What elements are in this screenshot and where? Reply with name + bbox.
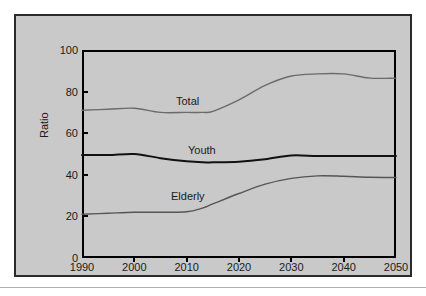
y-axis-tick-label: 100 [52, 45, 78, 56]
x-axis-tick-label: 2050 [384, 262, 408, 273]
y-axis-tick-label: 20 [52, 211, 78, 222]
x-axis-tick-label: 2030 [279, 262, 303, 273]
bottom-divider [0, 287, 426, 288]
y-axis-tick-mark [82, 215, 88, 217]
chart-plot-area [82, 50, 396, 258]
series-label-elderly: Elderly [171, 190, 205, 202]
y-axis-tick-mark [82, 91, 88, 93]
series-label-total: Total [176, 95, 199, 107]
x-axis-tick-mark [238, 258, 240, 262]
series-label-youth: Youth [188, 144, 216, 156]
x-axis-tick-mark [290, 258, 292, 262]
x-axis-tick-labels: 1990200020102020203020402050 [82, 262, 396, 278]
y-axis-tick-mark [82, 174, 88, 176]
y-axis-tick-label: 60 [52, 128, 78, 139]
y-axis-tick-label: 80 [52, 87, 78, 98]
series-line-youth [82, 154, 396, 163]
x-axis-tick-mark [133, 258, 135, 262]
y-axis-tick-label: 40 [52, 170, 78, 181]
x-axis-tick-label: 2040 [331, 262, 355, 273]
series-line-total [82, 74, 396, 113]
x-axis-tick-label: 2020 [227, 262, 251, 273]
x-axis-tick-label: 1990 [70, 262, 94, 273]
x-axis-tick-label: 2000 [122, 262, 146, 273]
series-line-elderly [82, 176, 396, 215]
chart-panel: 020406080100 199020002010202020302040205… [14, 14, 412, 277]
x-axis-tick-mark [186, 258, 188, 262]
x-axis-tick-label: 2010 [174, 262, 198, 273]
y-axis-title: Ratio [38, 112, 50, 138]
y-axis-tick-labels: 020406080100 [50, 50, 78, 258]
y-axis-tick-mark [82, 132, 88, 134]
x-axis-tick-mark [343, 258, 345, 262]
